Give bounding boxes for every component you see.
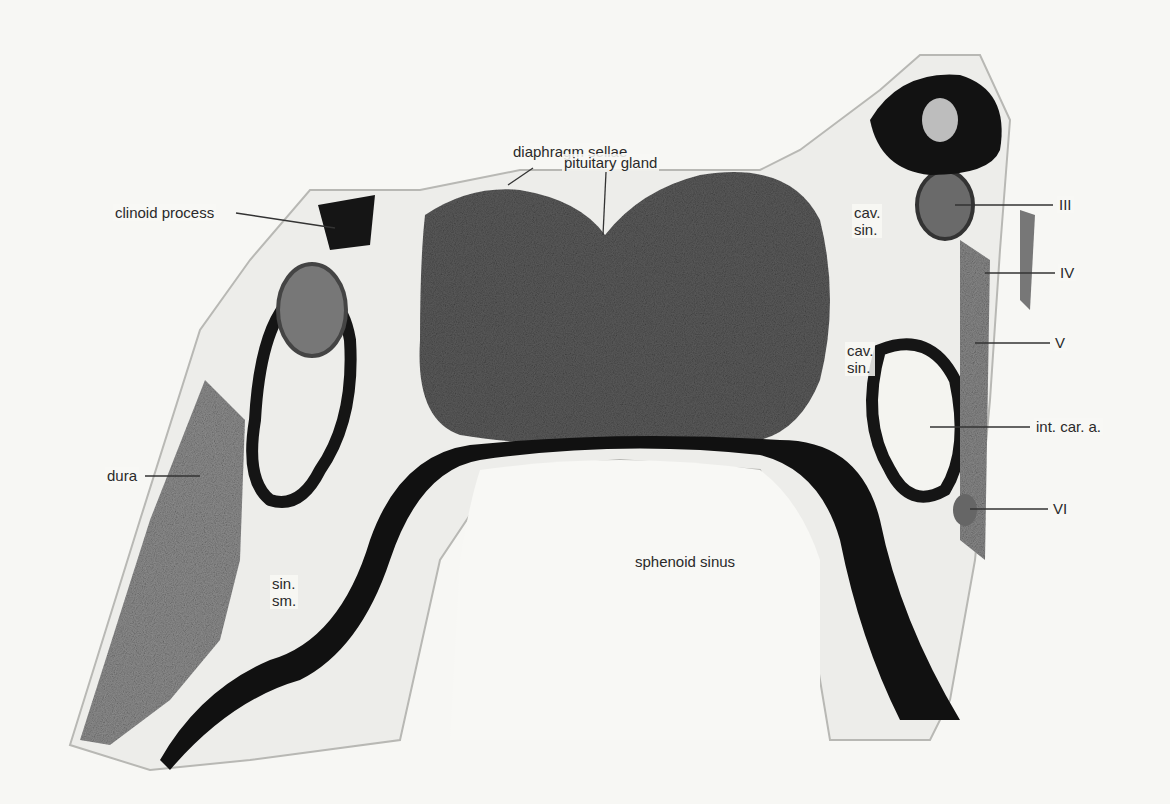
bone-marrow	[922, 98, 958, 142]
label-nerve-VI: VI	[1051, 500, 1069, 517]
tissue-section-illustration	[0, 0, 1170, 804]
label-nerve-III: III	[1057, 196, 1074, 213]
label-cavernous-sinus-upper: cav. sin.	[852, 204, 882, 238]
label-pituitary-gland: pituitary gland	[562, 154, 659, 171]
label-internal-carotid-artery: int. car. a.	[1034, 418, 1103, 435]
label-cavernous-sinus-lower: cav. sin.	[845, 342, 875, 376]
label-dura: dura	[105, 467, 139, 484]
label-clinoid-process: clinoid process	[113, 204, 216, 221]
label-sinus-sm: sin. sm.	[270, 575, 298, 609]
right-carotid-wall	[872, 344, 961, 496]
label-sphenoid-sinus: sphenoid sinus	[633, 553, 737, 570]
sphenoid-sinus-cavity	[450, 460, 820, 740]
outer-dura-strip	[1020, 210, 1035, 310]
label-nerve-IV: IV	[1058, 264, 1076, 281]
left-nerve-bundle	[278, 264, 346, 356]
label-nerve-V: V	[1053, 334, 1067, 351]
histology-figure: clinoid process diaphragm sellae pituita…	[0, 0, 1170, 804]
nerve-VI-tissue	[953, 494, 977, 526]
